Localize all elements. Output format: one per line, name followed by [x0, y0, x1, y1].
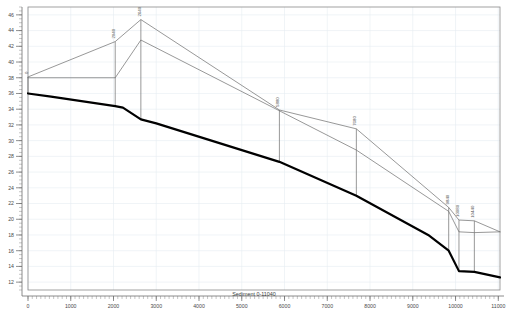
sediment-profile-chart: 121416182022242628303234363840424446 010…	[0, 0, 509, 323]
station-label: 5880	[275, 97, 280, 107]
x-axis-tick-label: 1000	[65, 303, 77, 309]
x-axis-tick-label: 6000	[279, 303, 291, 309]
y-axis-tick-label: 20	[8, 216, 14, 222]
y-axis-tick-label: 46	[8, 12, 14, 18]
y-axis-tick-label: 40	[8, 59, 14, 65]
x-axis-title: Sediment 0-11040	[232, 291, 276, 297]
x-axis-tick-label: 4000	[193, 303, 205, 309]
x-axis-tick-label: 7000	[322, 303, 334, 309]
y-axis-tick-label: 18	[8, 232, 14, 238]
y-axis-tick-label: 38	[8, 75, 14, 81]
station-label: 10440	[470, 205, 475, 218]
station-label: 7680	[352, 116, 357, 126]
chart-background	[0, 0, 509, 323]
x-axis-tick-label: 5000	[236, 303, 248, 309]
x-axis-tick-label: 9000	[407, 303, 419, 309]
y-axis-tick-label: 32	[8, 122, 14, 128]
y-axis-tick-label: 24	[8, 185, 14, 191]
y-axis-tick-label: 26	[8, 169, 14, 175]
station-label: 2040	[111, 28, 116, 38]
x-axis-tick-label: 10000	[448, 303, 463, 309]
y-axis-tick-label: 42	[8, 43, 14, 49]
y-axis-tick-label: 30	[8, 138, 14, 144]
y-axis-tick-label: 28	[8, 153, 14, 159]
y-axis-tick-label: 16	[8, 248, 14, 254]
y-axis-tick-label: 22	[8, 200, 14, 206]
station-label: 2640	[137, 6, 142, 16]
station-label: 10080	[455, 204, 460, 217]
x-axis-tick-label: 0	[27, 303, 30, 309]
chart-container: 121416182022242628303234363840424446 010…	[0, 0, 509, 323]
x-axis-tick-label: 2000	[108, 303, 120, 309]
x-axis-tick-label: 3000	[150, 303, 162, 309]
y-axis-tick-label: 34	[8, 106, 14, 112]
station-label: 9840	[445, 194, 450, 204]
y-axis-tick-label: 36	[8, 90, 14, 96]
y-axis-tick-label: 12	[8, 279, 14, 285]
y-axis-tick-label: 14	[8, 263, 14, 269]
y-axis-tick-label: 44	[8, 27, 14, 33]
x-axis-tick-label: 8000	[364, 303, 376, 309]
x-axis-tick-label: 11000	[491, 303, 505, 309]
